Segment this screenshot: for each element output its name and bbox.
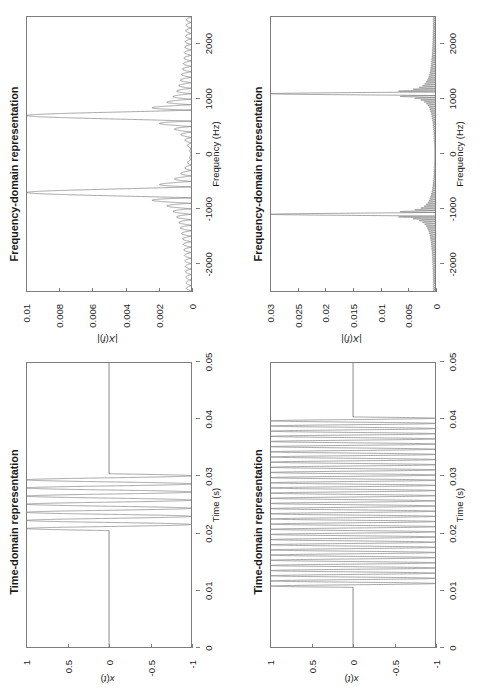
x-axis-label-time-bottom: Time (s) xyxy=(454,362,465,648)
x-tick xyxy=(440,361,444,362)
x-axis-label-freq-bottom: Frequency (Hz) xyxy=(454,16,465,292)
y-tick xyxy=(325,288,326,292)
y-tick xyxy=(92,288,93,292)
y-tick-label: 0.025 xyxy=(292,304,303,346)
panel-title-time-bottom: Time-domain representation xyxy=(252,352,264,692)
x-tick xyxy=(440,98,444,99)
y-tick-label: 0.008 xyxy=(54,304,65,346)
y-axis-label-time-bottom: x(t) xyxy=(322,674,382,685)
x-tick xyxy=(196,590,200,591)
y-tick-labels-time-top: 10.50-0.5-1 xyxy=(26,652,192,692)
y-tick-label: 0.5 xyxy=(62,660,73,690)
y-tick-label: 0.5 xyxy=(306,660,317,690)
y-tick-label: 1 xyxy=(21,660,32,690)
x-tick xyxy=(196,263,200,264)
y-tick xyxy=(159,288,160,292)
y-tick-labels-time-bottom: 10.50-0.5-1 xyxy=(270,652,436,692)
y-tick-label: 0 xyxy=(431,304,442,346)
panel-freq-top: Frequency-domain representation -2000-10… xyxy=(0,0,244,348)
x-tick xyxy=(196,647,200,648)
y-tick xyxy=(436,644,437,648)
x-tick xyxy=(440,647,444,648)
x-tick xyxy=(440,43,444,44)
y-tick xyxy=(408,288,409,292)
x-axis-label-time-top: Time (s) xyxy=(210,362,221,648)
y-tick xyxy=(436,288,437,292)
y-tick xyxy=(270,644,271,648)
figure-canvas: Time-domain representation 00.010.020.03… xyxy=(0,0,488,700)
x-tick xyxy=(440,208,444,209)
y-tick xyxy=(270,288,271,292)
y-tick-label: 0.005 xyxy=(403,304,414,346)
spectrum-freq-top xyxy=(27,17,191,291)
y-tick xyxy=(298,288,299,292)
x-tick xyxy=(196,533,200,534)
y-axis-label-freq-top: |X(f)| xyxy=(78,334,138,345)
y-tick-label: 0.01 xyxy=(21,304,32,346)
y-tick xyxy=(353,288,354,292)
y-tick xyxy=(151,644,152,648)
x-tick xyxy=(440,475,444,476)
x-axis-label-freq-top: Frequency (Hz) xyxy=(210,16,221,292)
y-tick xyxy=(192,288,193,292)
y-axis-label-time-top: x(t) xyxy=(78,674,138,685)
y-tick-label: -0.5 xyxy=(145,660,156,690)
x-tick xyxy=(440,590,444,591)
x-tick xyxy=(196,153,200,154)
waveform-time-top xyxy=(27,363,191,647)
y-tick xyxy=(312,644,313,648)
y-tick xyxy=(59,288,60,292)
x-tick xyxy=(440,263,444,264)
panel-time-top: Time-domain representation 00.010.020.03… xyxy=(0,352,244,692)
y-tick-label: 0.03 xyxy=(265,304,276,346)
y-tick xyxy=(109,644,110,648)
y-tick xyxy=(381,288,382,292)
y-tick-label: -1 xyxy=(187,660,198,690)
plot-area-time-bottom xyxy=(270,362,436,648)
y-axis-label-freq-bottom: |X(f)| xyxy=(322,334,382,345)
y-tick xyxy=(26,644,27,648)
y-tick-label: 0.002 xyxy=(153,304,164,346)
plot-area-freq-top xyxy=(26,16,192,292)
y-tick-label: 0 xyxy=(187,304,198,346)
x-tick xyxy=(440,153,444,154)
y-tick xyxy=(395,644,396,648)
x-tick xyxy=(440,533,444,534)
y-tick xyxy=(68,644,69,648)
y-tick xyxy=(126,288,127,292)
panel-title-freq-top: Frequency-domain representation xyxy=(8,0,20,348)
spectrum-freq-bottom xyxy=(271,17,435,291)
y-tick-label: -0.5 xyxy=(389,660,400,690)
y-tick-label: 1 xyxy=(265,660,276,690)
y-tick-label: -1 xyxy=(431,660,442,690)
panel-freq-bottom: Frequency-domain representation -2000-10… xyxy=(244,0,488,348)
x-tick xyxy=(196,98,200,99)
x-tick xyxy=(196,418,200,419)
plot-area-freq-bottom xyxy=(270,16,436,292)
x-tick xyxy=(440,418,444,419)
x-tick xyxy=(196,208,200,209)
y-tick xyxy=(353,644,354,648)
y-tick xyxy=(192,644,193,648)
plot-area-time-top xyxy=(26,362,192,648)
panel-time-bottom: Time-domain representation 00.010.020.03… xyxy=(244,352,488,692)
x-tick xyxy=(196,475,200,476)
x-tick xyxy=(196,361,200,362)
y-tick xyxy=(26,288,27,292)
panel-title-time-top: Time-domain representation xyxy=(8,352,20,692)
x-tick xyxy=(196,43,200,44)
waveform-time-bottom xyxy=(271,363,435,647)
panel-title-freq-bottom: Frequency-domain representation xyxy=(252,0,264,348)
